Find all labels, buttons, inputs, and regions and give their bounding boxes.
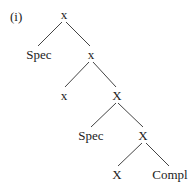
node-x-2: x — [88, 48, 95, 61]
tree-edges — [0, 0, 195, 186]
edge-n7-n8 — [118, 143, 142, 166]
edge-n5-n7 — [118, 103, 143, 127]
node-spec-2: Spec — [78, 129, 103, 142]
edge-n7-n9 — [146, 143, 169, 166]
node-spec-1: Spec — [26, 48, 51, 61]
node-root-x: x — [61, 8, 68, 21]
example-label: (i) — [10, 10, 22, 23]
node-X-5: X — [138, 129, 147, 142]
edge-n3-n4 — [65, 62, 89, 87]
node-compl: Compl — [152, 168, 187, 181]
node-X-4: X — [112, 89, 121, 102]
edge-n1-n2 — [38, 22, 62, 46]
edge-n3-n5 — [93, 62, 116, 87]
edge-n1-n3 — [66, 22, 90, 46]
edge-n5-n6 — [91, 103, 116, 127]
node-X-6: X — [112, 168, 121, 181]
syntax-tree-diagram: (i) x Spec x x X Spec X X Compl — [0, 0, 195, 186]
node-x-3: x — [61, 89, 68, 102]
